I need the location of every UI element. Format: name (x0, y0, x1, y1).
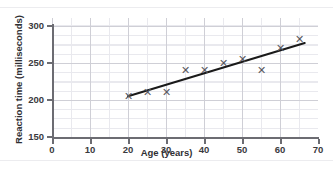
data-point: ✕ (295, 34, 304, 45)
data-point: ✕ (143, 86, 152, 97)
data-point: ✕ (276, 43, 285, 54)
data-point: ✕ (181, 65, 190, 76)
data-point: ✕ (219, 58, 228, 69)
data-point-layer: ✕✕✕✕✕✕✕✕✕✕ (0, 8, 333, 160)
scatter-chart: 300 250 200 150 0 10 20 30 40 50 60 70 A… (0, 8, 333, 160)
chart-page: 300 250 200 150 0 10 20 30 40 50 60 70 A… (0, 0, 333, 170)
data-point: ✕ (257, 65, 266, 76)
data-point: ✕ (238, 53, 247, 64)
data-point: ✕ (200, 65, 209, 76)
bottom-divider (0, 160, 333, 161)
data-point: ✕ (124, 91, 133, 102)
data-point: ✕ (162, 86, 171, 97)
